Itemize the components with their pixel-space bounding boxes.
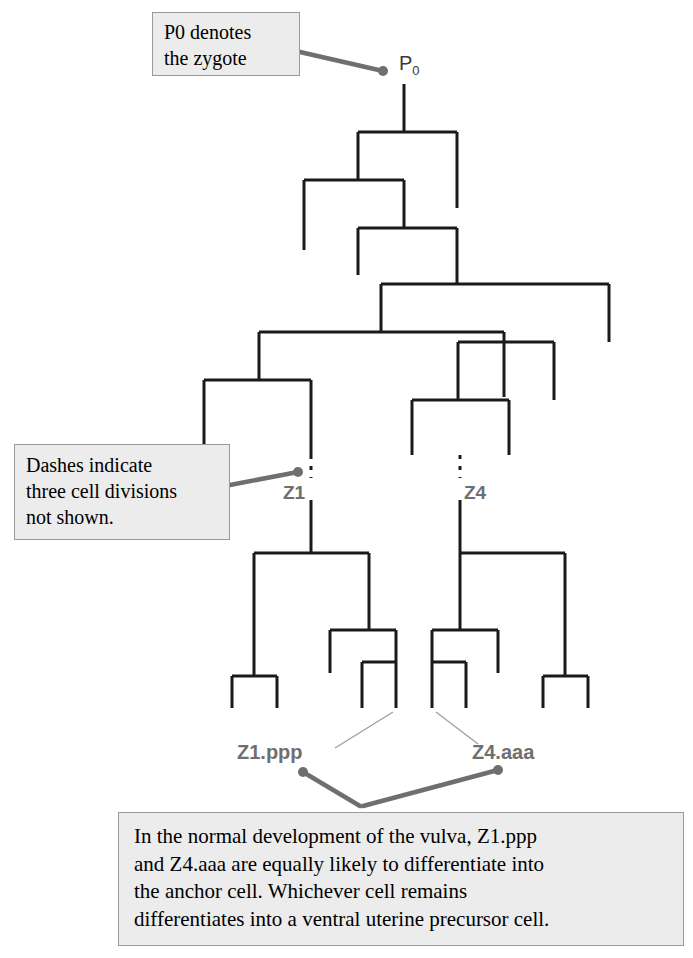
leader-line-vulva-right: [363, 770, 498, 806]
leader-dot-z4aaa: [493, 765, 503, 775]
callout-zygote-line-1: P0 denotes: [164, 19, 289, 45]
callout-dashes-line-1: Dashes indicate: [26, 452, 219, 478]
callout-vulva-line-2: and Z4.aaa are equally likely to differe…: [134, 851, 669, 879]
root-node-letter: P: [399, 52, 412, 74]
node-label-z1ppp: Z1.ppp: [237, 741, 303, 764]
leader-dots: [293, 66, 503, 777]
root-node-subscript: 0: [412, 63, 419, 78]
leader-dot-dashes: [293, 467, 303, 477]
root-node-label: P0: [399, 52, 420, 78]
callout-vulva-line-1: In the normal development of the vulva, …: [134, 823, 669, 851]
callout-vulva-line-3: the anchor cell. Whichever cell remains: [134, 878, 669, 906]
node-label-z4aaa: Z4.aaa: [472, 741, 534, 764]
leader-dot-z1ppp: [298, 767, 308, 777]
callout-zygote-line-2: the zygote: [164, 45, 289, 71]
callout-zygote: P0 denotes the zygote: [152, 12, 300, 76]
leader-line-vulva-left: [303, 772, 360, 806]
leader-line-zygote: [300, 52, 383, 71]
callout-vulva: In the normal development of the vulva, …: [118, 812, 684, 946]
callout-dashes: Dashes indicate three cell divisions not…: [14, 444, 230, 540]
cell-lineage-figure: P0 Z1 Z4 Z1.ppp Z4.aaa P0 denotes the zy…: [0, 0, 693, 958]
leader-dot-zygote: [378, 66, 388, 76]
node-label-z4: Z4: [464, 482, 486, 504]
callout-vulva-line-4: differentiates into a ventral uterine pr…: [134, 906, 669, 934]
callout-dashes-line-2: three cell divisions: [26, 478, 219, 504]
callout-dashes-line-3: not shown.: [26, 504, 219, 530]
node-label-z1: Z1: [283, 482, 305, 504]
